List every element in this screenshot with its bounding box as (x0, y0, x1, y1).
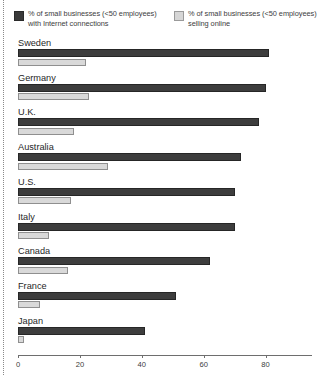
bar-group: U.K. (18, 107, 312, 142)
axis-tick (18, 355, 19, 358)
bar-selling-online (18, 163, 108, 170)
category-label: Germany (18, 73, 56, 83)
bar-internet-connections (18, 49, 269, 57)
legend-entry-selling-online: % of small businesses (<50 employees) se… (174, 9, 324, 28)
axis-tick (80, 355, 81, 358)
legend-label-internet-connections: % of small businesses (<50 employees) wi… (28, 9, 164, 28)
axis-tick-label: 40 (138, 360, 146, 369)
axis-tick (142, 355, 143, 358)
axis-tick-label: 80 (261, 360, 269, 369)
axis-tick-label: 0 (16, 360, 20, 369)
bar-selling-online (18, 336, 24, 343)
category-label: U.K. (18, 107, 36, 117)
bar-group: Japan (18, 316, 312, 351)
axis-tick-label: 20 (76, 360, 84, 369)
category-label: France (18, 281, 47, 291)
bar-group: U.S. (18, 177, 312, 212)
axis-tick-label: 60 (199, 360, 207, 369)
bar-group: Australia (18, 142, 312, 177)
bar-internet-connections (18, 292, 176, 300)
chart-legend: % of small businesses (<50 employees) wi… (14, 9, 324, 28)
plot-area: SwedenGermanyU.K.AustraliaU.S.ItalyCanad… (18, 38, 312, 352)
bar-group: France (18, 281, 312, 316)
bar-internet-connections (18, 84, 266, 92)
axis-tick (204, 355, 205, 358)
bar-group: Canada (18, 246, 312, 281)
category-label: Italy (18, 212, 35, 222)
category-label: Canada (18, 246, 50, 256)
x-axis: 020406080 (18, 355, 312, 375)
bar-internet-connections (18, 153, 241, 161)
legend-entry-internet-connections: % of small businesses (<50 employees) wi… (14, 9, 164, 28)
bar-selling-online (18, 59, 86, 66)
bar-selling-online (18, 232, 49, 239)
bar-internet-connections (18, 118, 259, 126)
bar-selling-online (18, 197, 71, 204)
bar-selling-online (18, 93, 89, 100)
bar-group: Germany (18, 73, 312, 108)
category-label: Australia (18, 142, 54, 152)
bar-selling-online (18, 301, 40, 308)
dark-swatch-icon (14, 11, 24, 21)
bar-internet-connections (18, 257, 210, 265)
bar-group: Italy (18, 212, 312, 247)
category-label: U.S. (18, 177, 36, 187)
bar-internet-connections (18, 327, 145, 335)
small-business-internet-chart: % of small businesses (<50 employees) wi… (0, 0, 330, 375)
x-axis-line (18, 355, 312, 356)
light-swatch-icon (174, 11, 184, 21)
category-label: Japan (18, 316, 43, 326)
category-label: Sweden (18, 38, 51, 48)
axis-tick (266, 355, 267, 358)
bar-internet-connections (18, 223, 235, 231)
bar-selling-online (18, 128, 74, 135)
legend-label-selling-online: % of small businesses (<50 employees) se… (188, 9, 324, 28)
bar-internet-connections (18, 188, 235, 196)
bar-selling-online (18, 267, 68, 274)
bar-group: Sweden (18, 38, 312, 73)
